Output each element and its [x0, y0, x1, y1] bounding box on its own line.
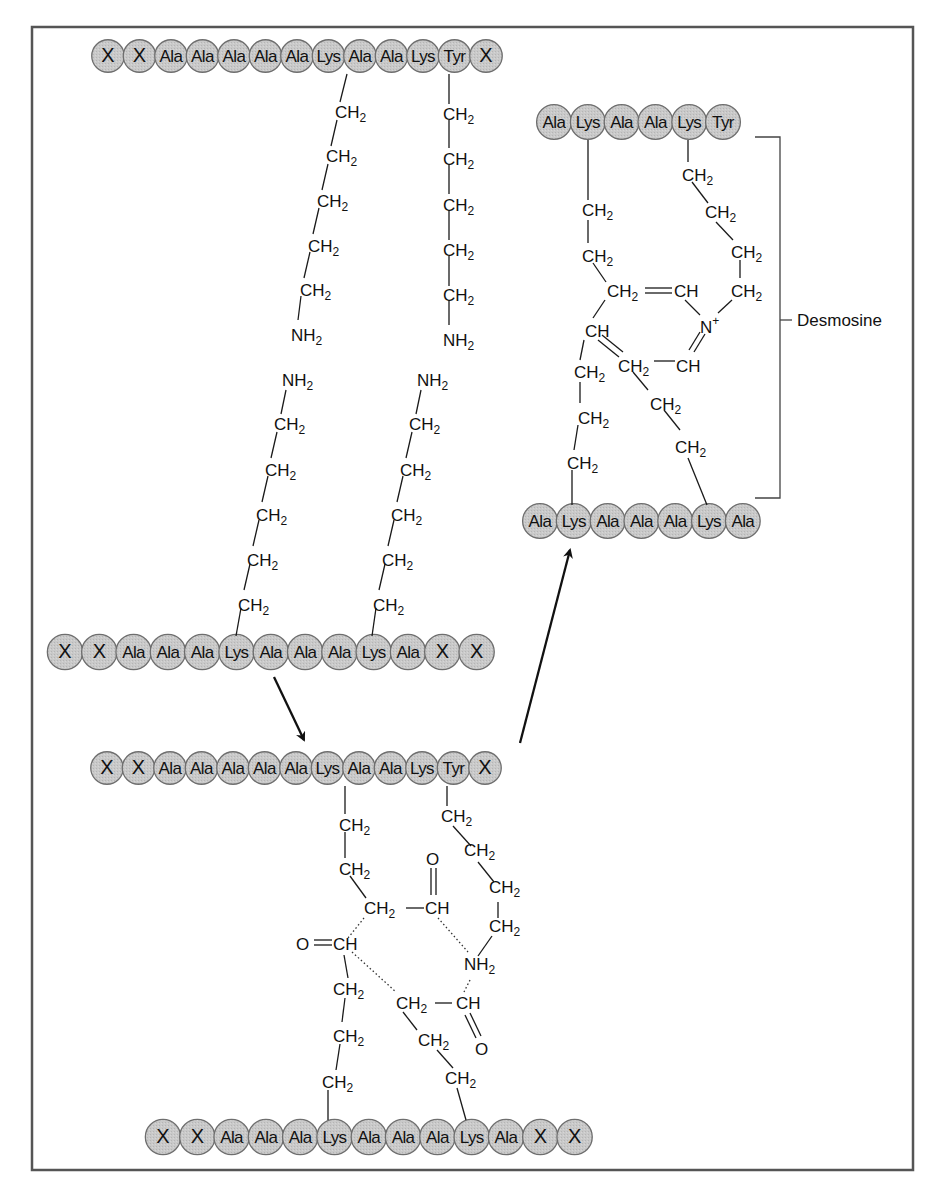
ch2-label: CH2 [256, 506, 288, 528]
residue-label: Lys [362, 643, 386, 662]
residue-label: Lys [316, 47, 340, 66]
residue-label: Ala [254, 47, 278, 66]
residue-label: Lys [322, 1128, 346, 1147]
ch2-label: CH2 [445, 1069, 477, 1091]
ch2-label: CH2 [582, 201, 614, 223]
residue-label: Lys [410, 759, 434, 778]
residue-label: Ala [397, 643, 421, 662]
residue-label: Ala [259, 643, 283, 662]
residue-label: Ala [191, 643, 215, 662]
peptide-chain-1: XXAlaAlaAlaAlaAlaLysAlaAlaLysTyrX [92, 40, 503, 73]
ch2-label: CH2 [238, 596, 270, 618]
residue-label: Tyr [444, 47, 467, 66]
ch2-label: CH2 [391, 506, 423, 528]
ch2-label: CH2 [464, 841, 496, 863]
residue-label: X [133, 44, 146, 66]
residue-label: Ala [380, 47, 404, 66]
nh2-label: NH2 [464, 955, 496, 977]
residue-label: X [191, 1125, 204, 1147]
ch-label: CH [456, 994, 481, 1013]
ch2-label: CH2 [618, 357, 650, 379]
residue-label: Ala [644, 113, 668, 132]
crosslink-dotted-bonds [348, 918, 470, 992]
residue-label: X [93, 640, 106, 662]
ch-label: CH [333, 935, 358, 954]
residue-label: X [470, 640, 483, 662]
residue-label: Ala [495, 1128, 519, 1147]
oxygen-label: O [426, 850, 439, 869]
residue-label: Ala [220, 1128, 244, 1147]
ch2-label: CH2 [489, 878, 521, 900]
residue-label: Ala [664, 512, 688, 531]
ch2-label: CH2 [650, 395, 682, 417]
residue-label: Lys [315, 759, 339, 778]
residue-label: Ala [610, 113, 634, 132]
residue-label: Ala [286, 47, 310, 66]
residue-label: Ala [328, 643, 352, 662]
ch2-label: CH2 [578, 409, 610, 431]
ch2-label: CH2 [489, 917, 521, 939]
residue-label: X [534, 1125, 547, 1147]
residue-label: Lys [562, 512, 586, 531]
residue-label: Ala [289, 1128, 313, 1147]
ch2-label: CH2 [382, 551, 414, 573]
residue-label: Lys [576, 113, 600, 132]
nh2-label: NH2 [443, 331, 475, 353]
ch2-label: CH2 [731, 282, 763, 304]
residue-label: Tyr [443, 759, 466, 778]
residue-label: Ala [255, 1128, 279, 1147]
ch2-label: CH2 [247, 551, 279, 573]
ch-label: CH [674, 282, 699, 301]
residue-label: X [568, 1125, 581, 1147]
residue-label: X [100, 756, 113, 778]
nh2-label: NH2 [282, 371, 314, 393]
ch2-label: CH2 [443, 241, 475, 263]
residue-label: X [478, 756, 491, 778]
ch2-label: CH2 [607, 282, 639, 304]
residue-label: Ala [191, 47, 215, 66]
residue-label: Lys [460, 1128, 484, 1147]
residue-label: Lys [411, 47, 435, 66]
residue-label: Ala [348, 759, 372, 778]
ch2-label: CH2 [265, 461, 297, 483]
ch2-label: CH2 [731, 243, 763, 265]
oxygen-label: O [475, 1040, 488, 1059]
ch2-label: CH2 [441, 807, 473, 829]
ch2-label: CH2 [339, 860, 371, 882]
nh2-label: NH2 [291, 326, 323, 348]
ch2-label: CH2 [675, 438, 707, 460]
arrow-to-desmosine [520, 550, 570, 743]
residue-label: Ala [543, 113, 567, 132]
residue-label: Ala [160, 47, 184, 66]
ch2-label: CH2 [443, 286, 475, 308]
ch2-label: CH2 [443, 105, 475, 127]
ch2-label: CH2 [333, 980, 365, 1002]
residue-label: Ala [285, 759, 309, 778]
ch2-label: CH2 [326, 147, 358, 169]
crosslink-upper-chain: XXAlaAlaAlaAlaAlaLysAlaAlaLysTyrX [91, 752, 502, 785]
residue-label: Ala [157, 643, 181, 662]
ch2-label: CH2 [443, 196, 475, 218]
ch2-label: CH2 [373, 596, 405, 618]
ch2-label: CH2 [396, 994, 428, 1016]
residue-label: Ala [357, 1128, 381, 1147]
residue-label: X [101, 44, 114, 66]
residue-label: Ala [630, 512, 654, 531]
residue-label: Ala [731, 512, 755, 531]
ch2-label: CH2 [582, 247, 614, 269]
n-plus-label: N+ [700, 314, 719, 337]
ch2-label: CH2 [308, 237, 340, 259]
residue-label: Ala [253, 759, 277, 778]
residue-label: X [58, 640, 71, 662]
ch2-label: CH2 [317, 192, 349, 214]
residue-label: Ala [159, 759, 183, 778]
residue-label: X [156, 1125, 169, 1147]
residue-label: Ala [392, 1128, 416, 1147]
ch2-label: CH2 [339, 816, 371, 838]
residue-label: Ala [223, 47, 247, 66]
lysine-side-chain-labels: CH2 CH2 CH2 CH2 CH2 NH2 CH2 CH2 CH2 CH2 … [238, 103, 475, 618]
residue-label: Ala [529, 512, 553, 531]
desmosine-label: Desmosine [797, 311, 882, 330]
ch2-label: CH2 [574, 363, 606, 385]
ch-label: CH [425, 899, 450, 918]
